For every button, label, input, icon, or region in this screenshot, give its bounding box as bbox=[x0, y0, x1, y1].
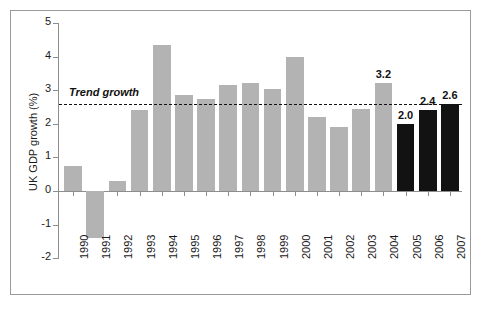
bar-value-label-2005: 2.0 bbox=[393, 109, 419, 121]
x-tick-label-1998: 1998 bbox=[255, 235, 267, 259]
bar-1994 bbox=[153, 45, 171, 191]
x-tick bbox=[117, 191, 118, 196]
x-tick bbox=[73, 191, 74, 196]
x-tick bbox=[317, 191, 318, 196]
bar-1992 bbox=[109, 181, 127, 191]
x-tick-label-1996: 1996 bbox=[211, 235, 223, 259]
y-tick bbox=[53, 191, 59, 192]
y-tick bbox=[53, 258, 59, 259]
bar-2002 bbox=[330, 127, 348, 191]
y-tick-label: -1 bbox=[25, 217, 51, 229]
x-tick-label-1997: 1997 bbox=[233, 235, 245, 259]
y-tick bbox=[53, 23, 59, 24]
y-tick-label: 5 bbox=[25, 15, 51, 27]
y-axis-line bbox=[58, 23, 59, 259]
x-tick bbox=[450, 191, 451, 196]
x-tick bbox=[273, 191, 274, 196]
x-tick bbox=[339, 191, 340, 196]
x-tick bbox=[428, 191, 429, 196]
bar-1993 bbox=[131, 110, 149, 191]
x-tick-label-1993: 1993 bbox=[145, 235, 157, 259]
y-tick-label: -2 bbox=[25, 250, 51, 262]
x-tick-label-1992: 1992 bbox=[122, 235, 134, 259]
chart-figure: UK GDP growth (%) 543210-1-2 19901991199… bbox=[0, 0, 486, 312]
x-tick bbox=[383, 191, 384, 196]
x-tick-label-2007: 2007 bbox=[455, 235, 467, 259]
y-tick-label: 0 bbox=[25, 183, 51, 195]
x-tick-label-2005: 2005 bbox=[411, 235, 423, 259]
trend-growth-line bbox=[59, 104, 462, 105]
bar-value-label-2004: 3.2 bbox=[370, 68, 396, 80]
y-tick-label: 4 bbox=[25, 49, 51, 61]
x-tick-label-2000: 2000 bbox=[300, 235, 312, 259]
x-tick bbox=[206, 191, 207, 196]
y-tick-label: 2 bbox=[25, 116, 51, 128]
x-tick-label-1999: 1999 bbox=[278, 235, 290, 259]
x-tick bbox=[361, 191, 362, 196]
bar-1991 bbox=[86, 191, 104, 238]
x-tick bbox=[140, 191, 141, 196]
bar-1998 bbox=[242, 83, 260, 191]
x-tick-label-2006: 2006 bbox=[433, 235, 445, 259]
bar-2003 bbox=[352, 109, 370, 191]
y-tick bbox=[53, 225, 59, 226]
y-tick bbox=[53, 157, 59, 158]
x-tick bbox=[162, 191, 163, 196]
bar-2005 bbox=[397, 124, 415, 191]
x-tick bbox=[295, 191, 296, 196]
x-tick bbox=[406, 191, 407, 196]
x-tick bbox=[228, 191, 229, 196]
bar-1997 bbox=[219, 85, 237, 191]
chart-frame: UK GDP growth (%) 543210-1-2 19901991199… bbox=[10, 10, 471, 295]
x-tick-label-2003: 2003 bbox=[366, 235, 378, 259]
bar-2007 bbox=[441, 104, 459, 191]
trend-growth-label: Trend growth bbox=[69, 86, 139, 98]
x-tick-label-2004: 2004 bbox=[388, 235, 400, 259]
bar-1996 bbox=[197, 99, 215, 191]
x-tick-label-1995: 1995 bbox=[189, 235, 201, 259]
x-tick-label-2002: 2002 bbox=[344, 235, 356, 259]
y-tick-label: 1 bbox=[25, 149, 51, 161]
x-tick bbox=[184, 191, 185, 196]
y-tick bbox=[53, 90, 59, 91]
x-tick-label-1990: 1990 bbox=[78, 235, 90, 259]
bar-2000 bbox=[286, 57, 304, 191]
y-axis-title: UK GDP growth (%) bbox=[27, 93, 39, 191]
bar-2001 bbox=[308, 117, 326, 191]
y-tick-label: 3 bbox=[25, 82, 51, 94]
bar-2004 bbox=[375, 83, 393, 191]
bar-1995 bbox=[175, 95, 193, 191]
x-tick-label-1994: 1994 bbox=[167, 235, 179, 259]
x-tick bbox=[250, 191, 251, 196]
y-tick bbox=[53, 57, 59, 58]
bar-1990 bbox=[64, 166, 82, 191]
y-tick bbox=[53, 124, 59, 125]
x-tick-label-1991: 1991 bbox=[100, 235, 112, 259]
x-axis-zero-line bbox=[58, 191, 462, 192]
x-tick-label-2001: 2001 bbox=[322, 235, 334, 259]
bar-value-label-2007: 2.6 bbox=[437, 89, 463, 101]
bar-2006 bbox=[419, 110, 437, 191]
